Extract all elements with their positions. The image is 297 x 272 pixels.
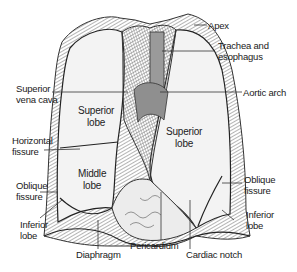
label-horizontal-line1: Horizontal	[12, 135, 53, 146]
label-left-superior-line2: lobe	[166, 138, 202, 150]
label-superior-vena-cava: Superior vena cava	[16, 83, 58, 105]
label-right-superior-line1: Superior	[78, 105, 114, 117]
label-trachea-line1: Trachea and	[218, 40, 269, 51]
label-pericardium: Pericardium	[130, 240, 178, 251]
label-oblique-right-line2: fissure	[244, 185, 275, 196]
label-trachea-esophagus: Trachea and esophagus	[218, 40, 269, 62]
label-inferior-lobe-left: Inferior lobe	[20, 219, 48, 241]
label-right-superior-line2: lobe	[78, 117, 114, 129]
label-inferior-left-line1: Inferior	[20, 219, 48, 230]
label-diaphragm: Diaphragm	[76, 249, 121, 260]
label-svc-line2: vena cava	[16, 94, 58, 105]
label-left-superior-lobe: Superior lobe	[166, 126, 202, 149]
label-oblique-fissure-left: Oblique fissure	[16, 180, 47, 202]
label-inferior-right-line2: lobe	[246, 220, 274, 231]
label-oblique-right-line1: Oblique	[244, 174, 275, 185]
label-apex: Apex	[208, 20, 229, 31]
label-horizontal-line2: fissure	[12, 146, 53, 157]
label-left-superior-line1: Superior	[166, 126, 202, 138]
label-middle-line2: lobe	[78, 180, 106, 192]
label-oblique-left-line2: fissure	[16, 191, 47, 202]
label-svc-line1: Superior	[16, 83, 58, 94]
label-middle-line1: Middle	[78, 168, 106, 180]
label-cardiac-notch: Cardiac notch	[186, 249, 242, 260]
label-right-superior-lobe: Superior lobe	[78, 105, 114, 128]
label-inferior-left-line2: lobe	[20, 230, 48, 241]
label-trachea-line2: esophagus	[218, 51, 269, 62]
label-inferior-lobe-right: Inferior lobe	[246, 209, 274, 231]
lung-diagram: Apex Trachea and esophagus Aortic arch S…	[0, 0, 297, 272]
label-oblique-left-line1: Oblique	[16, 180, 47, 191]
label-inferior-right-line1: Inferior	[246, 209, 274, 220]
label-middle-lobe: Middle lobe	[78, 168, 106, 191]
label-aortic-arch: Aortic arch	[243, 87, 286, 98]
label-oblique-fissure-right: Oblique fissure	[244, 174, 275, 196]
label-horizontal-fissure: Horizontal fissure	[12, 135, 53, 157]
